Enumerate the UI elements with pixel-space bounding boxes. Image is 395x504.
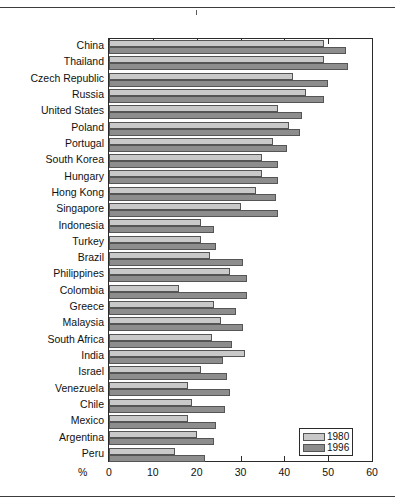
bar-row <box>109 121 372 137</box>
bar-1996 <box>109 455 205 462</box>
category-label: Chile <box>0 399 104 410</box>
category-label: Philippines <box>0 268 104 279</box>
bar-1980 <box>109 89 306 96</box>
bar-1980 <box>109 122 289 129</box>
bar-1996 <box>109 275 247 282</box>
bar-1980 <box>109 252 210 259</box>
bar-row <box>109 153 372 169</box>
bar-1996 <box>109 194 276 201</box>
bar-1980 <box>109 285 179 292</box>
category-label: Colombia <box>0 285 104 296</box>
bar-1980 <box>109 415 188 422</box>
bar-1980 <box>109 203 241 210</box>
bar-1980 <box>109 301 214 308</box>
bar-1996 <box>109 406 225 413</box>
x-tick-top-60 <box>372 39 373 44</box>
x-axis-tick-label: 0 <box>94 466 124 478</box>
bar-1996 <box>109 210 278 217</box>
top-divider-rule <box>0 7 395 8</box>
bar-1996 <box>109 373 227 380</box>
bar-1996 <box>109 259 243 266</box>
bar-1996 <box>109 357 223 364</box>
bottom-divider-rule <box>0 496 395 497</box>
x-axis-tick-label: 50 <box>313 466 343 478</box>
legend-item-1980: 1980 <box>303 431 349 442</box>
category-label: Thailand <box>0 56 104 67</box>
category-label: Argentina <box>0 432 104 443</box>
x-axis-tick-label: 40 <box>269 466 299 478</box>
category-label: China <box>0 40 104 51</box>
bar-1996 <box>109 112 302 119</box>
bar-row <box>109 381 372 397</box>
category-label: Brazil <box>0 252 104 263</box>
bar-1996 <box>109 292 247 299</box>
top-rule-tick <box>196 10 197 15</box>
chart-plot-area <box>108 38 373 462</box>
bar-row <box>109 202 372 218</box>
category-label: South Africa <box>0 334 104 345</box>
x-axis-tick-label: 60 <box>357 466 387 478</box>
bar-1996 <box>109 308 236 315</box>
bar-1980 <box>109 366 201 373</box>
bar-row <box>109 137 372 153</box>
x-axis-tick-label: 30 <box>226 466 256 478</box>
legend-swatch-1996 <box>303 444 325 452</box>
bar-1996 <box>109 96 324 103</box>
category-label: Hong Kong <box>0 187 104 198</box>
bar-1996 <box>109 341 232 348</box>
bar-1980 <box>109 170 262 177</box>
bar-1980 <box>109 317 221 324</box>
bar-row <box>109 398 372 414</box>
category-label: Czech Republic <box>0 73 104 84</box>
bar-1996 <box>109 324 243 331</box>
bar-1980 <box>109 431 197 438</box>
bar-1980 <box>109 187 256 194</box>
bar-row <box>109 104 372 120</box>
category-label: Hungary <box>0 171 104 182</box>
bar-1980 <box>109 105 278 112</box>
bar-1980 <box>109 399 192 406</box>
category-label: Portugal <box>0 138 104 149</box>
bar-1980 <box>109 382 188 389</box>
bar-row <box>109 267 372 283</box>
bar-row <box>109 218 372 234</box>
bar-1996 <box>109 161 278 168</box>
bar-1980 <box>109 154 262 161</box>
bar-1996 <box>109 243 216 250</box>
bar-row <box>109 55 372 71</box>
bar-1980 <box>109 138 273 145</box>
bar-1980 <box>109 334 212 341</box>
bar-row <box>109 333 372 349</box>
bar-row <box>109 300 372 316</box>
chart-legend: 1980 1996 <box>299 428 353 456</box>
category-label: Venezuela <box>0 383 104 394</box>
bar-1996 <box>109 80 328 87</box>
category-label: Singapore <box>0 203 104 214</box>
bar-1980 <box>109 236 201 243</box>
bar-1996 <box>109 438 214 445</box>
bar-1996 <box>109 177 278 184</box>
bar-1980 <box>109 56 324 63</box>
category-label: India <box>0 350 104 361</box>
x-axis-labels: % 0102030405060 <box>0 466 395 482</box>
bar-row <box>109 39 372 55</box>
bar-1996 <box>109 422 216 429</box>
bar-1980 <box>109 268 230 275</box>
category-label: South Korea <box>0 154 104 165</box>
bar-row <box>109 349 372 365</box>
category-label: Mexico <box>0 415 104 426</box>
legend-label-1980: 1980 <box>327 432 349 442</box>
legend-item-1996: 1996 <box>303 442 349 453</box>
category-label: Israel <box>0 366 104 377</box>
category-axis-labels: ChinaThailandCzech RepublicRussiaUnited … <box>0 38 104 462</box>
category-label: Russia <box>0 89 104 100</box>
bar-1996 <box>109 47 346 54</box>
legend-swatch-1980 <box>303 433 325 441</box>
bar-row <box>109 72 372 88</box>
category-label: Greece <box>0 301 104 312</box>
bar-row <box>109 169 372 185</box>
bar-1980 <box>109 448 175 455</box>
x-axis-unit-label: % <box>78 466 87 478</box>
bar-row <box>109 186 372 202</box>
bar-row <box>109 316 372 332</box>
